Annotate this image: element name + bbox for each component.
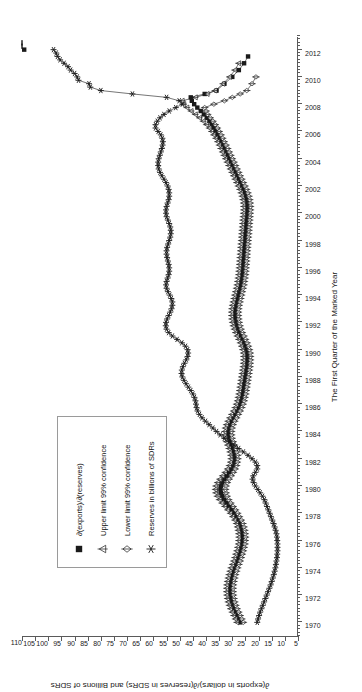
x-axis-minor-tick xyxy=(297,328,300,329)
chart-legend: ∂(exports)/∂(reserves)Upper limit 99% co… xyxy=(57,416,167,568)
data-point-star xyxy=(161,177,167,182)
x-axis-major-tick xyxy=(297,212,302,213)
legend-marker-star-icon xyxy=(144,539,158,559)
data-point-diamond xyxy=(229,95,237,99)
x-axis-tick-label-text: 2008 xyxy=(305,104,321,111)
data-point-star xyxy=(147,545,156,553)
y-axis-tick xyxy=(232,636,233,641)
x-axis-minor-tick xyxy=(297,332,300,333)
legend-item-label: Lower limit 99% confidence xyxy=(123,445,132,539)
x-axis-major-tick xyxy=(297,321,302,322)
y-axis-tick-label-text: 95 xyxy=(54,640,62,647)
x-axis-minor-tick xyxy=(297,250,300,251)
x-axis-minor-tick xyxy=(297,366,300,367)
x-axis-minor-tick xyxy=(297,509,300,510)
x-axis-major-tick xyxy=(297,376,302,377)
y-axis-tick-label-text: 110 xyxy=(11,640,22,647)
data-point-diamond xyxy=(252,75,260,79)
x-axis-tick-label-text: 1970 xyxy=(305,622,321,629)
y-axis-tick-label: 40 xyxy=(203,643,210,651)
x-axis-tick-label: 2000 xyxy=(305,198,312,214)
x-axis-tick-label-text: 1998 xyxy=(305,241,321,248)
y-axis-tick-label-text: 30 xyxy=(224,640,232,647)
x-axis-tick-label: 2010 xyxy=(305,61,312,77)
x-axis-major-tick xyxy=(297,621,302,622)
x-axis-minor-tick xyxy=(297,359,300,360)
data-point-diamond xyxy=(221,99,229,103)
data-point-star xyxy=(173,105,179,110)
legend-item: Lower limit 99% confidence xyxy=(115,425,139,559)
x-axis-minor-tick xyxy=(297,546,300,547)
x-axis-minor-tick xyxy=(297,352,300,353)
x-axis-minor-tick xyxy=(297,45,300,46)
y-axis-tick xyxy=(298,636,299,641)
data-point-star xyxy=(129,91,135,96)
x-axis-minor-tick xyxy=(297,291,300,292)
x-axis-minor-tick xyxy=(297,451,300,452)
x-axis-minor-tick xyxy=(297,574,300,575)
x-axis-tick-label: 1972 xyxy=(305,580,312,596)
x-axis-minor-tick xyxy=(297,73,300,74)
data-point-triangle xyxy=(235,61,242,66)
x-axis-major-tick xyxy=(297,430,302,431)
x-axis-tick-label: 1974 xyxy=(305,552,312,568)
x-axis-tick-label: 1982 xyxy=(305,443,312,459)
x-axis-minor-tick xyxy=(297,338,300,339)
x-axis-minor-tick xyxy=(297,499,300,500)
x-axis-minor-tick xyxy=(297,434,300,435)
x-axis-minor-tick xyxy=(297,161,300,162)
x-axis-tick-label: 1990 xyxy=(305,334,312,350)
y-axis-tick-label: 70 xyxy=(124,643,131,651)
x-axis-tick-label-text: 1996 xyxy=(305,268,321,275)
x-axis-minor-tick xyxy=(297,533,300,534)
data-point-star xyxy=(159,173,165,178)
x-axis-minor-tick xyxy=(297,413,300,414)
x-axis-minor-tick xyxy=(297,199,300,200)
y-axis-tick-label-text: 15 xyxy=(264,640,272,647)
x-axis-tick-label-text: 1986 xyxy=(305,404,321,411)
x-axis-minor-tick xyxy=(297,502,300,503)
x-axis-minor-tick xyxy=(297,226,300,227)
chart: ∂(exports in dollars)/∂(reserves in SDRs… xyxy=(0,0,362,692)
x-axis-tick-label-text: 1972 xyxy=(305,595,321,602)
x-axis-minor-tick xyxy=(297,298,300,299)
x-axis-tick-label-text: 2010 xyxy=(305,77,321,84)
x-axis-minor-tick xyxy=(297,59,300,60)
x-axis-tick-label: 2004 xyxy=(305,143,312,159)
y-axis-tick xyxy=(219,636,220,641)
x-axis-minor-tick xyxy=(297,373,300,374)
x-axis-minor-tick xyxy=(297,311,300,312)
x-axis-minor-tick xyxy=(297,369,300,370)
y-axis-tick-label-text: 65 xyxy=(132,640,140,647)
x-axis-minor-tick xyxy=(297,219,300,220)
x-axis-minor-tick xyxy=(297,83,300,84)
x-axis-minor-tick xyxy=(297,260,300,261)
x-axis-tick-label: 1988 xyxy=(305,361,312,377)
legend-item: ∂(exports)/∂(reserves) xyxy=(67,425,91,559)
legend-marker-filled-square-icon xyxy=(72,539,86,559)
x-axis-minor-tick xyxy=(297,342,300,343)
x-axis-minor-tick xyxy=(297,107,300,108)
data-point-star xyxy=(98,88,104,93)
x-axis-minor-tick xyxy=(297,110,300,111)
data-point-star xyxy=(252,470,258,475)
x-axis-minor-tick xyxy=(297,553,300,554)
x-axis-minor-tick xyxy=(297,529,300,530)
x-axis-tick-label-text: 2002 xyxy=(305,186,321,193)
x-axis-minor-tick xyxy=(297,216,300,217)
x-axis-minor-tick xyxy=(297,584,300,585)
x-axis-minor-tick xyxy=(297,127,300,128)
data-point-star xyxy=(188,388,194,393)
rotated-chart-wrapper: ∂(exports in dollars)/∂(reserves in SDRs… xyxy=(0,0,362,692)
x-axis-minor-tick xyxy=(297,144,300,145)
x-axis-major-tick xyxy=(297,403,302,404)
x-axis-tick-label: 1976 xyxy=(305,525,312,541)
x-axis-minor-tick xyxy=(297,236,300,237)
chart-canvas: ∂(exports in dollars)/∂(reserves in SDRs… xyxy=(0,0,362,692)
x-axis-minor-tick xyxy=(297,383,300,384)
x-axis-minor-tick xyxy=(297,632,300,633)
x-axis-minor-tick xyxy=(297,417,300,418)
y-axis-tick-label: 20 xyxy=(255,643,262,651)
x-axis-minor-tick xyxy=(297,55,300,56)
y-axis-tick-label: 60 xyxy=(150,643,157,651)
